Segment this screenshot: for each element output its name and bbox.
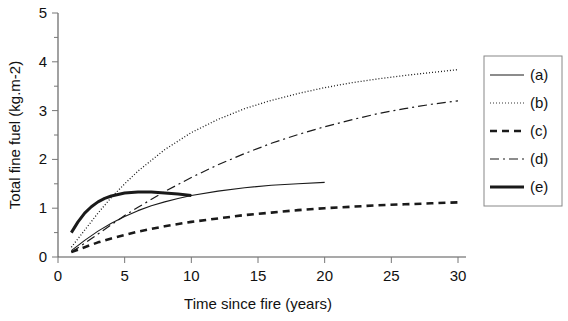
series-curve-e	[71, 192, 191, 233]
x-tick-label: 0	[54, 267, 62, 284]
x-tick-label: 25	[383, 267, 400, 284]
legend-label-b: (b)	[530, 94, 548, 111]
y-tick-label: 3	[39, 102, 47, 119]
y-tick-label: 4	[39, 53, 47, 70]
chart-figure: 012345051015202530Time since fire (years…	[0, 0, 568, 321]
series-curve-d	[71, 101, 458, 252]
series-curve-a	[71, 182, 324, 250]
chart-legend: (a)(b)(c)(d)(e)	[484, 56, 562, 206]
x-tick-label: 5	[120, 267, 128, 284]
x-tick-label: 10	[183, 267, 200, 284]
legend-label-e: (e)	[530, 178, 548, 195]
x-tick-label: 30	[450, 267, 467, 284]
axis-labels-group: 012345051015202530Time since fire (years…	[6, 4, 466, 312]
x-tick-label: 15	[250, 267, 267, 284]
axes-group	[52, 13, 466, 263]
y-tick-label: 2	[39, 150, 47, 167]
y-axis-title: Total fine fuel (kg.m-2)	[6, 61, 23, 209]
series-curve-b	[71, 70, 458, 248]
series-curve-c	[71, 202, 458, 252]
legend-label-a: (a)	[530, 66, 548, 83]
curves-group	[71, 70, 458, 253]
legend-label-c: (c)	[530, 122, 548, 139]
x-tick-label: 20	[316, 267, 333, 284]
y-tick-label: 0	[39, 248, 47, 265]
y-tick-label: 1	[39, 199, 47, 216]
y-tick-label: 5	[39, 4, 47, 21]
legend-label-d: (d)	[530, 150, 548, 167]
x-axis-title: Time since fire (years)	[184, 295, 332, 312]
chart-canvas: 012345051015202530Time since fire (years…	[0, 0, 568, 321]
